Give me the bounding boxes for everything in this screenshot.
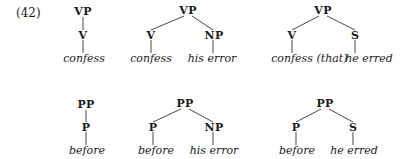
node-vp: VP [314, 5, 331, 16]
word-before: before [138, 145, 174, 156]
node-pp: PP [176, 98, 193, 109]
word-that: (that) [316, 53, 347, 64]
node-vp: VP [74, 6, 91, 17]
word-before: before [69, 145, 105, 156]
node-p: P [82, 122, 91, 133]
word-his-error: his error [188, 53, 237, 64]
word-he-erred: he erred [345, 53, 393, 64]
node-v: V [79, 30, 88, 41]
word-he-erred: he erred [330, 145, 378, 156]
node-p: P [292, 122, 301, 133]
node-np: NP [205, 30, 224, 41]
node-np: NP [205, 122, 224, 133]
node-pp: PP [77, 99, 94, 110]
node-pp: PP [316, 98, 333, 109]
node-s: S [351, 30, 359, 41]
word-confess: confess [63, 53, 105, 64]
word-his-error: his error [190, 145, 239, 156]
tree-branches [0, 0, 411, 159]
word-confess: confess [271, 53, 313, 64]
example-number: (42) [16, 7, 41, 19]
word-confess: confess [130, 53, 172, 64]
node-v: V [147, 30, 156, 41]
node-p: P [149, 122, 158, 133]
node-s: S [349, 122, 357, 133]
node-vp: VP [179, 5, 196, 16]
word-before: before [279, 145, 315, 156]
node-v: V [288, 30, 297, 41]
